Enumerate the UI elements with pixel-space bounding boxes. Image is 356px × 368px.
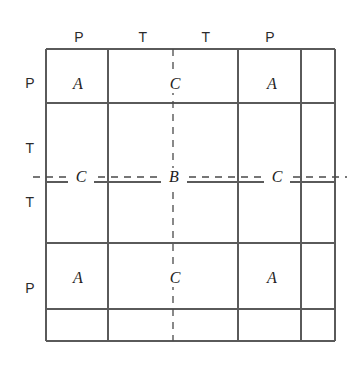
cell-letter-b-center: B — [161, 168, 187, 186]
row-header-3: P — [20, 280, 40, 296]
column-header-0: P — [69, 29, 89, 45]
row-header-0: P — [20, 75, 40, 91]
cell-letter-a-bottom-right: A — [260, 269, 284, 287]
column-header-3: P — [260, 29, 280, 45]
cell-letter-c-middle-right: C — [264, 168, 290, 186]
cell-letter-a-top-left: A — [66, 75, 90, 93]
symmetry-grid-diagram: P T T P P T T P A C A C B C A C A — [0, 0, 356, 368]
cell-letter-a-bottom-left: A — [66, 269, 90, 287]
cell-letter-c-middle-left: C — [68, 168, 94, 186]
column-header-2: T — [196, 29, 216, 45]
cell-letter-a-top-right: A — [260, 75, 284, 93]
column-header-1: T — [133, 29, 153, 45]
row-header-1: T — [20, 140, 40, 156]
row-header-2: T — [20, 194, 40, 210]
cell-letter-c-bottom-center: C — [162, 269, 188, 287]
cell-letter-c-top-center: C — [162, 75, 188, 93]
